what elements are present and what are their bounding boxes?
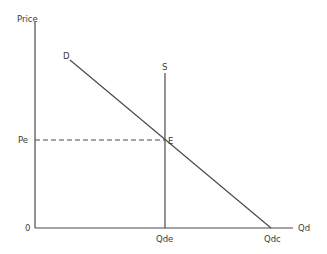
- equilibrium-quantity-label: Qde: [156, 234, 173, 244]
- demand-x-intercept-label: Qdc: [264, 234, 281, 244]
- demand-label: D: [63, 51, 70, 61]
- equilibrium-point-label: E: [168, 136, 173, 146]
- equilibrium-price-label: Pe: [18, 135, 28, 145]
- x-axis-label: Qd: [298, 223, 310, 233]
- supply-label: S: [162, 62, 167, 72]
- y-axis-label: Price: [17, 14, 38, 24]
- supply-demand-diagram: Price Qd 0 D S E Pe Qde Qdc: [0, 0, 327, 254]
- origin-label: 0: [25, 223, 30, 233]
